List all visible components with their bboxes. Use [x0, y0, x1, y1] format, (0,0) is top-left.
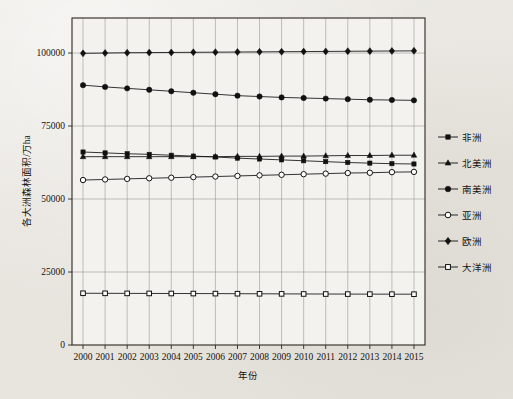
y-axis-tick-label: 0: [60, 340, 65, 350]
legend-label: 欧洲: [462, 236, 482, 247]
data-point-marker-filled-circle: [213, 92, 218, 97]
x-axis-tick-label: 2009: [272, 352, 291, 362]
legend-item-南美洲[interactable]: 南美洲: [438, 184, 492, 195]
x-axis-tick-label: 2001: [96, 352, 115, 362]
data-point-marker-filled-triangle: [445, 160, 451, 165]
y-axis-tick-label: 50000: [41, 194, 65, 204]
data-point-marker-open-circle: [323, 171, 328, 176]
data-point-marker-open-circle: [411, 169, 416, 174]
forest-area-line-chart: 2000200120022003200420052006200720082009…: [0, 0, 513, 399]
data-point-marker-open-circle: [235, 173, 240, 178]
x-axis-tick-label: 2008: [250, 352, 269, 362]
data-point-marker-open-circle: [279, 172, 284, 177]
data-point-marker-open-square: [257, 291, 262, 296]
y-axis-tick-label: 100000: [37, 48, 66, 58]
legend-item-欧洲[interactable]: 欧洲: [438, 236, 482, 247]
data-point-marker-open-circle: [102, 177, 107, 182]
x-axis-tick-label: 2000: [74, 352, 93, 362]
data-point-marker-filled-circle: [80, 82, 85, 87]
data-point-marker-open-circle: [80, 177, 85, 182]
y-axis-title: 各大洲森林面积/万ha: [21, 134, 32, 226]
data-point-marker-open-circle: [213, 174, 218, 179]
data-point-marker-open-square: [147, 291, 152, 296]
data-point-marker-filled-square: [302, 159, 306, 163]
legend-label: 亚洲: [462, 211, 482, 221]
data-point-marker-open-circle: [169, 175, 174, 180]
data-point-marker-filled-circle: [389, 97, 394, 102]
chart-legend: 非洲北美洲南美洲亚洲欧洲大洋洲: [438, 132, 492, 273]
data-point-marker-filled-square: [324, 160, 328, 164]
data-point-marker-open-square: [235, 291, 240, 296]
data-point-marker-filled-circle: [279, 95, 284, 100]
data-point-marker-open-square: [412, 292, 417, 297]
data-point-marker-open-circle: [191, 174, 196, 179]
legend-label: 南美洲: [462, 184, 492, 195]
data-point-marker-filled-circle: [445, 186, 451, 192]
x-axis-tick-label: 2005: [184, 352, 203, 362]
x-axis-title: 年份: [238, 370, 258, 381]
x-axis-tick-label: 2004: [162, 352, 181, 362]
legend-item-大洋洲[interactable]: 大洋洲: [438, 262, 492, 273]
data-point-marker-open-circle: [257, 173, 262, 178]
x-axis-tick-label: 2003: [140, 352, 159, 362]
data-point-marker-open-square: [301, 292, 306, 297]
data-point-marker-open-square: [446, 265, 451, 270]
data-point-marker-filled-circle: [147, 87, 152, 92]
data-point-marker-filled-circle: [301, 95, 306, 100]
data-point-marker-open-square: [103, 291, 108, 296]
x-axis-tick-label: 2013: [360, 352, 379, 362]
data-point-marker-open-square: [345, 292, 350, 297]
legend-label: 大洋洲: [462, 262, 492, 273]
data-point-marker-filled-square: [412, 162, 416, 166]
x-axis-tick-label: 2015: [404, 352, 423, 362]
y-axis-tick-label: 25000: [41, 267, 65, 277]
data-point-marker-open-circle: [124, 176, 129, 181]
y-axis-tick-labels: 0250005000075000100000: [37, 48, 66, 350]
y-axis-tick-label: 75000: [41, 121, 65, 131]
data-point-marker-open-square: [279, 292, 284, 297]
legend-item-北美洲[interactable]: 北美洲: [438, 158, 492, 169]
x-axis-tick-label: 2014: [382, 352, 401, 362]
x-axis-tick-label: 2011: [316, 352, 335, 362]
data-point-marker-filled-circle: [235, 93, 240, 98]
data-point-marker-open-circle: [445, 212, 451, 218]
data-point-marker-open-square: [390, 292, 395, 297]
data-point-marker-open-circle: [147, 176, 152, 181]
legend-item-亚洲[interactable]: 亚洲: [438, 211, 482, 221]
data-point-marker-open-circle: [389, 169, 394, 174]
x-axis-tick-label: 2012: [338, 352, 357, 362]
data-point-marker-filled-circle: [257, 94, 262, 99]
data-point-marker-filled-square: [390, 162, 394, 166]
data-point-marker-open-square: [323, 292, 328, 297]
x-axis-tick-label: 2007: [228, 352, 247, 362]
data-point-marker-filled-square: [346, 160, 350, 164]
data-point-marker-filled-circle: [345, 96, 350, 101]
y-axis-ticks: [68, 53, 72, 345]
data-point-marker-filled-diamond: [445, 237, 451, 244]
x-axis-ticks: [83, 345, 414, 349]
data-point-marker-open-square: [169, 291, 174, 296]
data-point-marker-filled-circle: [169, 89, 174, 94]
data-point-marker-filled-circle: [124, 86, 129, 91]
data-point-marker-open-square: [191, 291, 196, 296]
x-axis-tick-label: 2006: [206, 352, 225, 362]
data-point-marker-filled-circle: [411, 98, 416, 103]
x-axis-tick-label: 2002: [118, 352, 137, 362]
data-point-marker-filled-square: [368, 161, 372, 165]
data-point-marker-filled-square: [279, 158, 283, 162]
legend-label: 北美洲: [462, 158, 492, 169]
data-point-marker-open-square: [213, 291, 218, 296]
x-axis-tick-labels: 2000200120022003200420052006200720082009…: [74, 352, 424, 362]
data-point-marker-open-circle: [301, 172, 306, 177]
data-point-marker-filled-square: [446, 135, 450, 139]
data-point-marker-open-square: [125, 291, 130, 296]
data-point-marker-open-square: [81, 291, 86, 296]
data-point-marker-open-square: [368, 292, 373, 297]
data-point-marker-filled-circle: [191, 90, 196, 95]
x-axis-tick-label: 2010: [294, 352, 313, 362]
data-point-marker-filled-circle: [367, 97, 372, 102]
data-point-marker-open-circle: [367, 170, 372, 175]
legend-item-非洲[interactable]: 非洲: [438, 132, 482, 143]
data-point-marker-filled-circle: [102, 84, 107, 89]
data-point-marker-filled-circle: [323, 96, 328, 101]
